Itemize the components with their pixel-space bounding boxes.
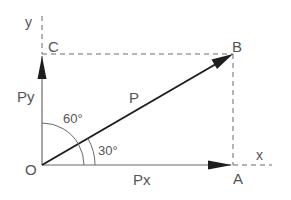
arc-30deg-inner <box>78 144 84 165</box>
arrowhead-p <box>212 54 234 69</box>
arc-60deg <box>42 123 78 144</box>
vector-p-label: P <box>129 89 139 106</box>
point-c-label: C <box>48 38 59 55</box>
angle-30-label: 30° <box>98 143 118 158</box>
angle-60-label: 60° <box>63 111 83 126</box>
y-axis-label: y <box>25 14 32 30</box>
arc-30deg-outer <box>88 139 95 166</box>
vector-py-label: Py <box>17 88 35 105</box>
arrowhead-py <box>38 56 47 79</box>
point-o-label: O <box>25 161 37 178</box>
vector-diagram: y x C B O A Py Px P 60° 30° <box>0 0 291 200</box>
x-axis-label: x <box>256 147 263 163</box>
point-a-label: A <box>233 170 243 187</box>
vector-px-label: Px <box>133 171 151 188</box>
point-b-label: B <box>232 38 242 55</box>
arrowhead-px <box>208 161 232 170</box>
